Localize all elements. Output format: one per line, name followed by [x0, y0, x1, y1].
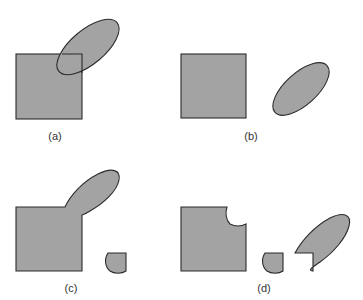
panel-label-a: (a) — [48, 130, 61, 142]
panel-c: (c) — [16, 170, 126, 294]
ellipse-shape — [264, 54, 337, 125]
figure-canvas: (a) (b) (c) (d) — [0, 0, 363, 300]
union-shape — [16, 170, 119, 271]
ellipse-minus-intersection — [295, 215, 350, 271]
intersection-piece — [263, 253, 283, 273]
square-minus-intersection — [181, 207, 246, 271]
panel-label-c: (c) — [65, 282, 78, 294]
panel-b: (b) — [181, 54, 338, 142]
panel-label-d: (d) — [257, 282, 270, 294]
panel-a: (a) — [16, 10, 128, 142]
panel-label-b: (b) — [244, 130, 257, 142]
square-shape — [181, 54, 246, 118]
panel-d: (d) — [181, 207, 350, 294]
intersection-piece — [106, 253, 126, 273]
